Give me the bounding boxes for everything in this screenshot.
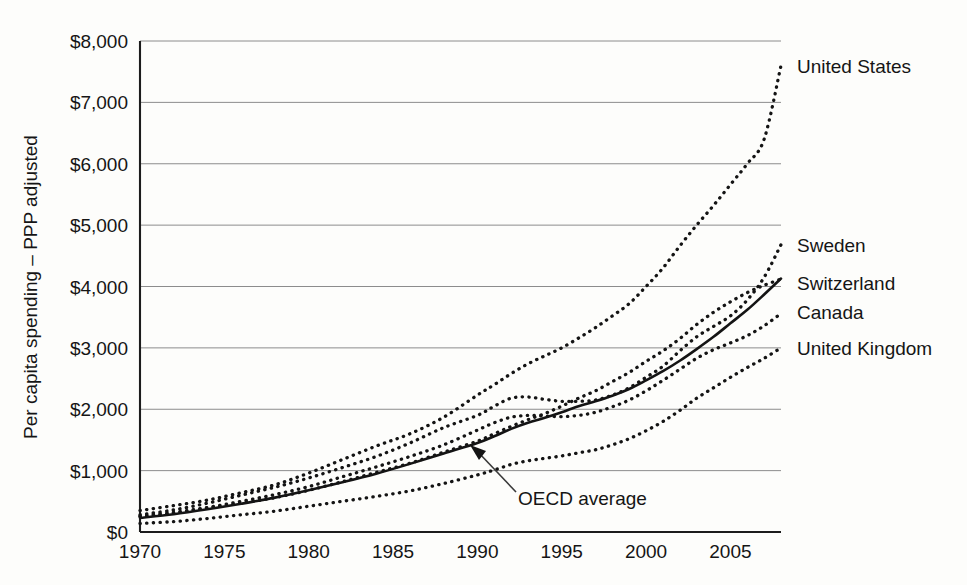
y-axis-title: Per capita spending – PPP adjusted [20, 135, 41, 439]
x-axis-tick-label: 1990 [456, 541, 498, 562]
y-axis-tick-label: $4,000 [70, 277, 128, 298]
x-axis-tick-label: 1970 [119, 541, 161, 562]
y-axis-tick-label: $7,000 [70, 92, 128, 113]
y-axis-tick-labels: $8,000$7,000$6,000$5,000$4,000$3,000$2,0… [70, 31, 128, 543]
y-axis-tick-label: $6,000 [70, 154, 128, 175]
series-line-canada [140, 314, 781, 517]
series-line-united-states [140, 66, 781, 511]
series-line-switzerland [140, 279, 781, 517]
y-axis-tick-label: $5,000 [70, 215, 128, 236]
series-label-united-states: United States [797, 56, 911, 77]
series-labels-group: United StatesSwedenSwitzerlandCanadaUnit… [797, 56, 932, 359]
series-line-oecd-average [140, 279, 781, 518]
series-line-sweden [140, 245, 781, 515]
line-chart: $8,000$7,000$6,000$5,000$4,000$3,000$2,0… [0, 0, 967, 585]
oecd-average-annotation-label: OECD average [518, 488, 647, 509]
series-label-canada: Canada [797, 302, 864, 323]
x-axis-tick-labels: 19701975198019851990199520002005 [119, 541, 752, 562]
y-axis-tick-label: $8,000 [70, 31, 128, 52]
series-line-united-kingdom [140, 348, 781, 524]
series-label-united-kingdom: United Kingdom [797, 338, 932, 359]
x-axis-tick-label: 1995 [541, 541, 583, 562]
x-axis-tick-label: 2005 [709, 541, 751, 562]
series-label-switzerland: Switzerland [797, 273, 895, 294]
x-axis-tick-label: 1985 [372, 541, 414, 562]
series-label-sweden: Sweden [797, 235, 866, 256]
series-paths-group [140, 66, 781, 524]
y-axis-tick-label: $2,000 [70, 399, 128, 420]
y-axis-tick-label: $1,000 [70, 461, 128, 482]
x-axis-tick-label: 2000 [625, 541, 667, 562]
y-axis-tick-label: $0 [107, 522, 128, 543]
x-axis-tick-label: 1980 [288, 541, 330, 562]
annotations-group: OECD average [470, 445, 647, 509]
chart-container: $8,000$7,000$6,000$5,000$4,000$3,000$2,0… [0, 0, 967, 585]
x-axis-tick-label: 1975 [203, 541, 245, 562]
y-axis-tick-label: $3,000 [70, 338, 128, 359]
